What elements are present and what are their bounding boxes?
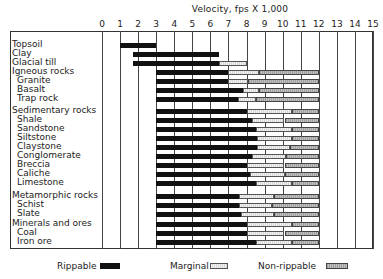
marginal-bar xyxy=(252,154,286,159)
rippable-bar xyxy=(156,181,255,186)
marginal-bar xyxy=(239,203,272,208)
x-tick-label: 3 xyxy=(148,19,164,29)
non-rippable-bar xyxy=(274,212,319,217)
x-tick-label: 4 xyxy=(166,19,182,29)
non-rippable-bar xyxy=(285,163,319,168)
x-tick-label: 6 xyxy=(202,19,218,29)
gridline xyxy=(319,31,320,249)
marginal-bar xyxy=(250,172,284,177)
rippable-bar xyxy=(133,61,220,66)
legend-non-rippable-label: Non-rippable xyxy=(258,261,316,271)
legend-rippable-label: Rippable xyxy=(57,261,96,271)
rippable-bar xyxy=(156,212,241,217)
rippable-bar xyxy=(156,79,228,84)
non-rippable-bar xyxy=(285,172,319,177)
gridline xyxy=(373,31,374,249)
marginal-bar xyxy=(252,118,285,123)
rippable-bar xyxy=(156,240,255,245)
rippable-bar xyxy=(156,88,243,93)
rippable-bar xyxy=(156,163,246,168)
rippable-bar xyxy=(120,43,156,48)
non-rippable-bar xyxy=(248,79,318,84)
marginal-bar xyxy=(241,212,274,217)
non-rippable-bar xyxy=(285,118,319,123)
rippable-bar xyxy=(156,70,228,75)
marginal-bar xyxy=(256,181,292,186)
non-rippable-bar xyxy=(292,222,319,227)
row-label: Limestone xyxy=(17,178,64,187)
marginal-bar xyxy=(247,231,285,236)
rippable-bar xyxy=(156,97,237,102)
marginal-bar xyxy=(247,222,292,227)
non-rippable-bar xyxy=(272,203,319,208)
non-rippable-bar xyxy=(259,70,319,75)
x-tick-label: 9 xyxy=(257,19,273,29)
row-label: Iron ore xyxy=(17,237,52,246)
legend-non-rippable-swatch xyxy=(326,263,348,269)
marginal-bar xyxy=(228,70,259,75)
gridline xyxy=(120,31,121,249)
marginal-bar xyxy=(257,145,290,150)
non-rippable-bar xyxy=(286,154,319,159)
non-rippable-bar xyxy=(292,109,319,114)
marginal-bar xyxy=(256,240,292,245)
rippable-bar xyxy=(156,231,246,236)
non-rippable-bar xyxy=(292,127,319,132)
non-rippable-bar xyxy=(292,136,319,141)
x-tick-label: 11 xyxy=(293,19,309,29)
marginal-bar xyxy=(247,109,292,114)
gridline xyxy=(102,31,103,249)
x-tick-label: 5 xyxy=(184,19,200,29)
marginal-bar xyxy=(239,194,273,199)
chart-title: Velocity, fps X 1,000 xyxy=(170,4,310,14)
x-tick-label: 12 xyxy=(311,19,327,29)
legend-marginal-swatch xyxy=(210,263,228,269)
non-rippable-bar xyxy=(285,231,319,236)
rippable-bar xyxy=(156,127,255,132)
marginal-bar xyxy=(243,88,259,93)
x-tick-label: 15 xyxy=(365,19,381,29)
rippable-bar xyxy=(133,52,220,57)
non-rippable-bar xyxy=(259,88,319,93)
x-tick-label: 13 xyxy=(329,19,345,29)
marginal-bar xyxy=(228,79,248,84)
x-tick-label: 7 xyxy=(220,19,236,29)
marginal-bar xyxy=(247,163,285,168)
x-tick-label: 0 xyxy=(94,19,110,29)
non-rippable-bar xyxy=(290,145,319,150)
legend-marginal-label: Marginal xyxy=(170,261,209,271)
marginal-bar xyxy=(238,97,256,102)
non-rippable-bar xyxy=(256,97,319,102)
row-label: Slate xyxy=(17,209,40,218)
marginal-bar xyxy=(219,61,246,66)
x-tick-label: 2 xyxy=(130,19,146,29)
non-rippable-bar xyxy=(292,240,319,245)
rippable-bar xyxy=(156,154,252,159)
row-label: Trap rock xyxy=(17,94,58,103)
rippable-bar xyxy=(156,194,239,199)
legend-rippable-swatch xyxy=(100,263,120,269)
marginal-bar xyxy=(256,127,292,132)
rippable-bar xyxy=(156,118,252,123)
gridline xyxy=(355,31,356,249)
non-rippable-bar xyxy=(292,181,319,186)
x-tick-label: 10 xyxy=(275,19,291,29)
rippable-bar xyxy=(156,222,246,227)
rippable-bar xyxy=(156,109,246,114)
non-rippable-bar xyxy=(274,194,319,199)
rippable-bar xyxy=(156,203,239,208)
gridline xyxy=(337,31,338,249)
x-tick-label: 1 xyxy=(112,19,128,29)
x-tick-label: 14 xyxy=(347,19,363,29)
rippable-bar xyxy=(156,172,250,177)
rippable-bar xyxy=(156,145,257,150)
x-tick-label: 8 xyxy=(239,19,255,29)
rippable-bar xyxy=(156,136,257,141)
marginal-bar xyxy=(257,136,291,141)
